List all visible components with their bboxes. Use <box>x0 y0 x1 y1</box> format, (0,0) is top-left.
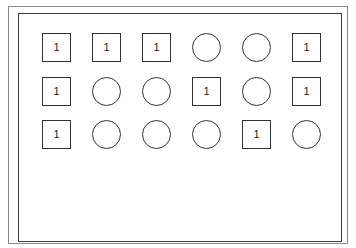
square-node: 1 <box>42 77 71 106</box>
square-node: 1 <box>242 120 271 149</box>
node-label: 1 <box>253 129 259 140</box>
node-label: 1 <box>303 86 309 97</box>
node-label: 1 <box>303 42 309 53</box>
node-label: 1 <box>103 42 109 53</box>
square-node: 1 <box>92 33 121 62</box>
square-node: 1 <box>42 120 71 149</box>
circle-node <box>192 33 221 62</box>
circle-node <box>92 120 121 149</box>
square-node: 1 <box>142 33 171 62</box>
circle-node <box>142 120 171 149</box>
square-node: 1 <box>292 33 321 62</box>
circle-node <box>242 33 271 62</box>
circle-node <box>142 77 171 106</box>
node-label: 1 <box>153 42 159 53</box>
circle-node <box>92 77 121 106</box>
node-label: 1 <box>203 86 209 97</box>
circle-node <box>292 120 321 149</box>
square-node: 1 <box>192 77 221 106</box>
node-label: 1 <box>53 129 59 140</box>
circle-node <box>192 120 221 149</box>
square-node: 1 <box>42 33 71 62</box>
node-label: 1 <box>53 42 59 53</box>
square-node: 1 <box>292 77 321 106</box>
node-label: 1 <box>53 86 59 97</box>
circle-node <box>242 77 271 106</box>
